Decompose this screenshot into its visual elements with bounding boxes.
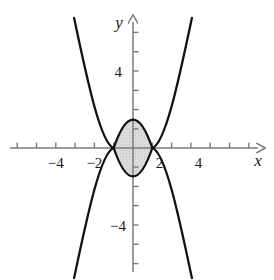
x-tick-label-neg2: −2 bbox=[86, 155, 102, 171]
y-tick-label-neg4: −4 bbox=[110, 218, 126, 234]
x-tick-label-4: 4 bbox=[195, 155, 203, 171]
graph-figure: −4 −2 2 4 4 −4 y x bbox=[0, 0, 274, 280]
y-axis-label: y bbox=[113, 13, 123, 32]
x-axis-label: x bbox=[253, 151, 262, 170]
y-tick-label-4: 4 bbox=[115, 64, 123, 80]
x-tick-label-2: 2 bbox=[156, 155, 164, 171]
x-tick-label-neg4: −4 bbox=[48, 155, 64, 171]
